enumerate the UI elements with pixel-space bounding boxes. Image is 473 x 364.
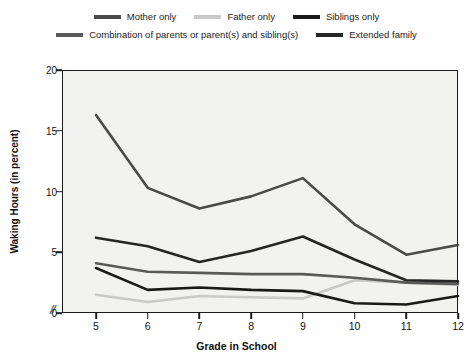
- x-axis-title: Grade in School: [0, 340, 473, 352]
- x-tick-label: 6: [145, 320, 151, 332]
- plot-area: 05101520 56789101112: [62, 70, 458, 313]
- x-tick-label: 10: [349, 320, 361, 332]
- legend-item[interactable]: Mother only: [94, 12, 177, 22]
- x-tick-label: 7: [197, 320, 203, 332]
- x-tick-label: 9: [300, 320, 306, 332]
- y-tick-label: 5: [51, 247, 57, 258]
- x-tick-label: 12: [452, 320, 464, 332]
- legend-swatch-icon: [316, 33, 343, 37]
- y-tick-label: 10: [46, 186, 57, 197]
- x-tick-mark: [250, 313, 252, 319]
- legend-swatch-icon: [293, 15, 320, 19]
- x-tick-mark: [405, 313, 407, 319]
- series-line: [96, 263, 458, 284]
- legend-item-label: Combination of parents or parent(s) and …: [89, 30, 298, 40]
- y-tick-label: 15: [46, 125, 57, 136]
- chart-legend: Mother onlyFather onlySiblings only Comb…: [0, 8, 473, 44]
- legend-swatch-icon: [194, 15, 221, 19]
- legend-row-1: Mother onlyFather onlySiblings only: [0, 8, 473, 26]
- series-line: [96, 115, 458, 255]
- chart-root: Mother onlyFather onlySiblings only Comb…: [0, 0, 473, 364]
- x-tick-mark: [354, 313, 356, 319]
- legend-item[interactable]: Extended family: [316, 30, 417, 40]
- x-tick-mark: [147, 313, 149, 319]
- y-tick-label: 20: [46, 65, 57, 76]
- x-tick-mark: [95, 313, 97, 319]
- legend-item[interactable]: Siblings only: [293, 12, 379, 22]
- x-tick-label: 5: [93, 320, 99, 332]
- series-lines: [62, 70, 458, 313]
- x-tick-mark: [457, 313, 459, 319]
- legend-swatch-icon: [94, 15, 121, 19]
- legend-item[interactable]: Combination of parents or parent(s) and …: [56, 30, 298, 40]
- legend-row-2: Combination of parents or parent(s) and …: [0, 26, 473, 44]
- x-tick-mark: [302, 313, 304, 319]
- y-axis-title: Waking Hours (in percent): [6, 70, 22, 313]
- legend-item-label: Siblings only: [326, 12, 379, 22]
- x-tick-label: 11: [401, 320, 412, 332]
- y-axis-title-text: Waking Hours (in percent): [9, 129, 20, 253]
- x-axis-break-icon: //: [50, 303, 55, 317]
- x-tick-label: 8: [248, 320, 254, 332]
- legend-item-label: Father only: [227, 12, 275, 22]
- legend-item[interactable]: Father only: [194, 12, 275, 22]
- x-tick-mark: [199, 313, 201, 319]
- legend-swatch-icon: [56, 33, 83, 37]
- legend-item-label: Mother only: [127, 12, 177, 22]
- legend-item-label: Extended family: [349, 30, 417, 40]
